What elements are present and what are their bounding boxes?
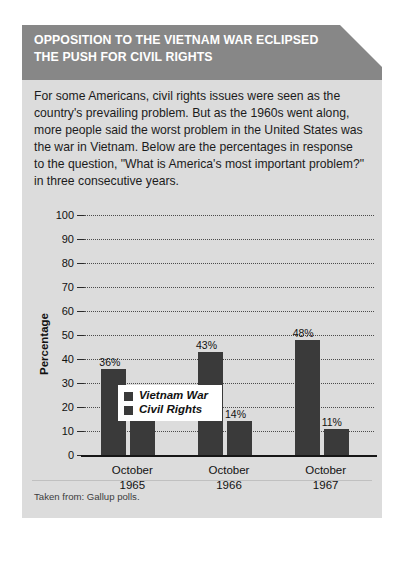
x-axis-tick-label: October1965 xyxy=(84,463,180,492)
page-title-line-1: OPPOSITION TO THE VIETNAM WAR ECLIPSED xyxy=(34,33,318,47)
y-axis-tick xyxy=(77,263,84,264)
bar xyxy=(324,429,349,455)
x-axis-tick-label-line: October xyxy=(84,463,180,478)
gridline xyxy=(84,263,374,264)
y-axis-tick-label: 70 xyxy=(40,282,74,293)
bar-value-label: 43% xyxy=(196,340,217,351)
y-axis-tick xyxy=(77,239,84,240)
header-banner: OPPOSITION TO THE VIETNAM WAR ECLIPSED T… xyxy=(22,25,382,80)
infographic-card: OPPOSITION TO THE VIETNAM WAR ECLIPSED T… xyxy=(22,25,382,518)
gridline xyxy=(84,383,374,384)
y-axis-tick xyxy=(77,335,84,336)
legend-label: Vietnam War xyxy=(139,390,208,402)
page-title-line-2: THE PUSH FOR CIVIL RIGHTS xyxy=(34,49,334,66)
y-axis-tick-label: 50 xyxy=(40,330,74,341)
footer-divider xyxy=(32,480,372,481)
y-axis-tick xyxy=(77,383,84,384)
y-axis-tick-label: 80 xyxy=(40,258,74,269)
source-note: Taken from: Gallup polls. xyxy=(34,491,140,502)
gridline xyxy=(84,239,374,240)
body-paragraph: For some Americans, civil rights issues … xyxy=(34,88,366,191)
x-axis-tick-label: October1966 xyxy=(181,463,277,492)
y-axis-tick xyxy=(77,359,84,360)
y-axis-tick xyxy=(77,311,84,312)
legend-swatch-icon xyxy=(124,406,133,415)
y-axis-tick xyxy=(77,287,84,288)
bar-value-label: 14% xyxy=(225,409,246,420)
y-axis-tick-label: 0 xyxy=(40,450,74,461)
bar-value-label: 36% xyxy=(99,357,120,368)
legend-item-civil-rights: Civil Rights xyxy=(124,403,208,417)
bar xyxy=(130,417,155,455)
gridline xyxy=(84,359,374,360)
chart-legend: Vietnam War Civil Rights xyxy=(118,385,222,421)
gridline xyxy=(84,287,374,288)
bar xyxy=(227,421,252,455)
page-root: OPPOSITION TO THE VIETNAM WAR ECLIPSED T… xyxy=(0,0,404,567)
bar-value-label: 48% xyxy=(293,328,314,339)
x-axis-tick-label: October1967 xyxy=(278,463,374,492)
bar-value-label: 11% xyxy=(322,417,342,428)
y-axis-tick-label: 90 xyxy=(40,234,74,245)
y-axis-tick-label: 30 xyxy=(40,378,74,389)
x-axis-line xyxy=(81,455,377,457)
bar xyxy=(295,340,320,455)
legend-label: Civil Rights xyxy=(139,404,202,416)
y-axis-tick-label: 100 xyxy=(40,210,74,221)
x-axis-tick-label-line: October xyxy=(181,463,277,478)
y-axis-tick-label: 20 xyxy=(40,402,74,413)
x-axis-tick-label-line: October xyxy=(278,463,374,478)
gridline xyxy=(84,215,374,216)
bar-chart: Percentage 0102030405060708090100 36%16%… xyxy=(22,203,382,485)
page-title: OPPOSITION TO THE VIETNAM WAR ECLIPSED T… xyxy=(34,32,334,66)
gridline xyxy=(84,311,374,312)
y-axis-tick xyxy=(77,215,84,216)
y-axis-tick-label: 10 xyxy=(40,426,74,437)
y-axis-tick xyxy=(77,431,84,432)
legend-swatch-icon xyxy=(124,392,133,401)
y-axis-tick-label: 60 xyxy=(40,306,74,317)
y-axis-tick xyxy=(77,407,84,408)
gridline xyxy=(84,335,374,336)
y-axis-tick-label: 40 xyxy=(40,354,74,365)
legend-item-vietnam-war: Vietnam War xyxy=(124,389,208,403)
